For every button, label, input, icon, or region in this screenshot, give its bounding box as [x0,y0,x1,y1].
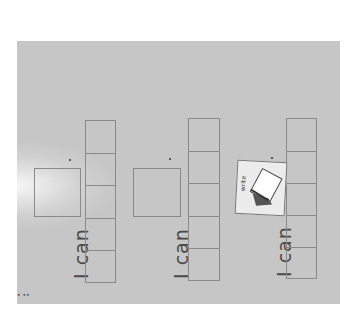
write-picture-card: write [235,160,288,217]
dot-1 [69,159,71,161]
picture-box-2 [133,168,181,217]
margin-mark: • •• [17,291,30,298]
pencil-paper-icon [246,167,284,209]
dot-2 [169,158,171,160]
card-label: write [239,176,247,191]
letter-boxes-1 [85,120,116,283]
letter-boxes-2 [188,118,220,281]
worksheet-page: I can I can I can [17,41,340,304]
letter-boxes-3 [286,118,317,279]
dot-3 [271,157,273,159]
picture-box-1 [34,168,81,217]
